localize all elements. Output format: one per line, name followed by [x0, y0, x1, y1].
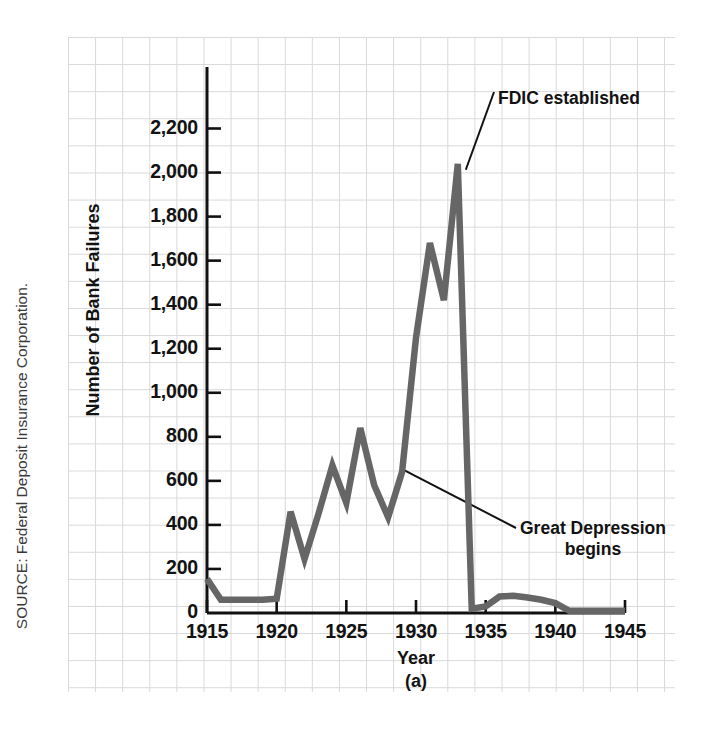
- figure-container: SOURCE: Federal Deposit Insurance Corpor…: [0, 0, 708, 736]
- plot-svg: [0, 0, 708, 736]
- data-series-bank-failures: [207, 164, 625, 611]
- axis-tick-marks: [207, 129, 625, 614]
